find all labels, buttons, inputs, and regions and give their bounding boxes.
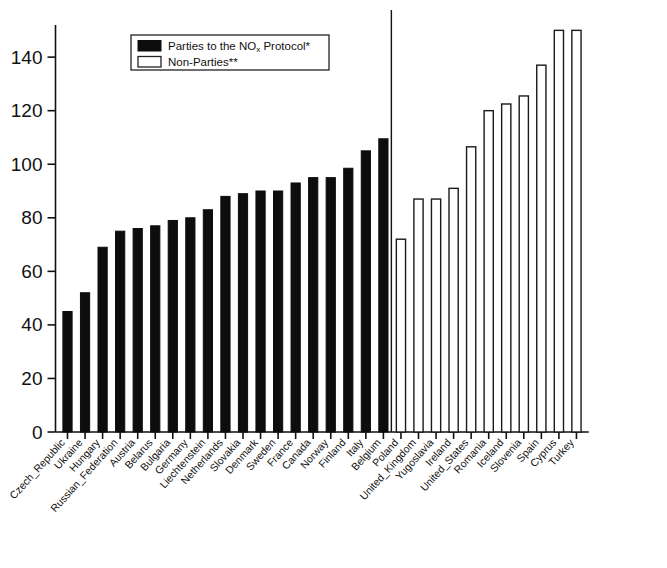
bar-belarus <box>151 226 160 432</box>
bar-spain <box>537 65 546 432</box>
bar-ukraine <box>80 293 89 432</box>
legend-label-parties: Parties to the NOx Protocol* <box>168 40 311 54</box>
y-tick-label: 80 <box>21 207 42 228</box>
y-tick-label: 40 <box>21 314 42 335</box>
y-tick-label: 20 <box>21 368 42 389</box>
bar-turkey <box>572 30 581 432</box>
bar-netherlands <box>221 196 230 432</box>
bar-czech-republic <box>63 312 72 432</box>
bar-canada <box>309 178 318 432</box>
bar-austria <box>133 229 142 433</box>
bar-ireland <box>449 188 458 432</box>
bar-sweden <box>274 191 283 432</box>
bar-france <box>291 183 300 432</box>
y-tick-label: 140 <box>11 47 43 68</box>
bar-united-kingdom <box>414 199 423 432</box>
y-tick-label: 100 <box>11 154 43 175</box>
y-tick-label: 120 <box>11 100 43 121</box>
bar-slovakia <box>238 194 247 432</box>
bar-finland <box>344 168 353 432</box>
legend-swatch-parties <box>138 41 161 52</box>
y-tick-label: 0 <box>32 422 43 443</box>
bar-italy <box>361 151 370 432</box>
legend-swatch-non_parties <box>138 57 161 68</box>
bar-belgium <box>379 139 388 432</box>
bar-yugoslavia <box>431 199 440 432</box>
bar-norway <box>326 178 335 432</box>
nox-protocol-bar-chart: 020406080100120140 Czech_RepublicUkraine… <box>0 0 667 568</box>
bar-liechtenstein <box>203 210 212 432</box>
bar-cyprus <box>554 30 563 432</box>
bar-russian-federation <box>116 231 125 432</box>
chart-legend: Parties to the NOx Protocol*Non-Parties*… <box>131 35 329 70</box>
bar-iceland <box>502 104 511 432</box>
bar-poland <box>396 239 405 432</box>
bar-united-states <box>467 147 476 432</box>
bar-hungary <box>98 247 107 432</box>
y-tick-label: 60 <box>21 261 42 282</box>
bar-bulgaria <box>168 220 177 432</box>
chart-canvas: 020406080100120140 Czech_RepublicUkraine… <box>0 0 667 568</box>
bar-romania <box>484 111 493 432</box>
bar-slovenia <box>519 96 528 432</box>
bar-germany <box>186 218 195 432</box>
legend-label-non_parties: Non-Parties** <box>168 56 238 68</box>
bar-denmark <box>256 191 265 432</box>
